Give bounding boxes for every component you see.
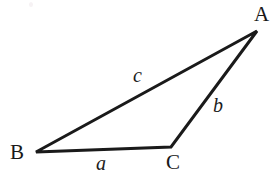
vertex-label-a: A [254,4,269,25]
triangle-outline [36,31,257,152]
vertex-label-c: C [166,152,180,173]
triangle-shape [0,0,274,176]
vertex-label-b: B [10,142,24,163]
side-label-b: b [213,95,223,115]
side-label-c: c [133,65,142,85]
triangle-diagram: A B C a b c [0,0,274,176]
side-label-a: a [96,153,106,173]
